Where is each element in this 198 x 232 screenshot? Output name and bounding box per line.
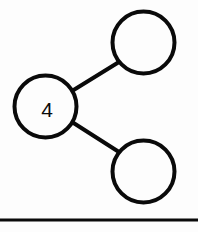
node-labeled-4[interactable]: 4 [15,76,77,138]
edge-4-to-top-right [72,62,119,91]
node-bottom-right[interactable] [113,141,175,203]
node-top-right-circle[interactable] [113,12,175,74]
edge-4-to-bottom-right [72,122,119,152]
edge-group [72,62,119,152]
node-labeled-4-label: 4 [41,98,53,121]
node-link-graph: 4 [0,0,198,232]
diagram-canvas: 4 [0,0,198,232]
node-bottom-right-circle[interactable] [113,141,175,203]
node-top-right[interactable] [113,12,175,74]
node-group: 4 [15,12,175,203]
